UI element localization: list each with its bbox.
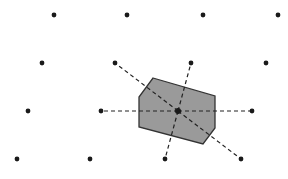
lattice-point [264,61,269,66]
lattice-point [250,109,255,114]
lattice-point [15,157,20,162]
lattice-point [52,13,57,18]
lattice-point [239,157,244,162]
lattice-point [26,109,31,114]
lattice-point [40,61,45,66]
lattice-point [276,13,281,18]
lattice-point [88,157,93,162]
lattice-point [125,13,130,18]
lattice-point [113,61,118,66]
lattice-point [201,13,206,18]
lattice-point [163,157,168,162]
center-point [175,108,181,114]
lattice-point [99,109,104,114]
lattice-diagram [0,0,288,179]
lattice-point [189,61,194,66]
center-lattice-point [175,108,181,114]
